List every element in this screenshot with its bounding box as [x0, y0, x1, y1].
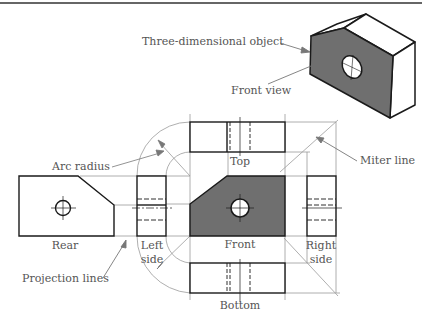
bottom-view — [190, 263, 285, 293]
label-front: Front — [215, 239, 265, 251]
label-top: Top — [222, 156, 258, 168]
top-view — [190, 122, 285, 152]
label-left-side-1: Left — [137, 240, 167, 252]
label-arc-radius: Arc radius — [52, 161, 110, 173]
label-left-side-2: side — [137, 254, 167, 266]
label-right-side-2: side — [304, 254, 338, 266]
left-side-view — [137, 176, 166, 236]
isometric-object — [310, 14, 415, 118]
label-rear: Rear — [45, 240, 85, 252]
label-front-view: Front view — [231, 85, 291, 97]
right-side-view — [307, 176, 336, 236]
label-miter-line: Miter line — [360, 155, 415, 167]
arc-outer-top — [137, 122, 190, 176]
arc-inner-bottom — [166, 236, 190, 263]
iso-leaders — [268, 43, 311, 84]
miter-line-top — [280, 120, 338, 172]
label-bottom: Bottom — [210, 300, 270, 312]
label-right-side-1: Right — [304, 240, 338, 252]
label-projection-lines: Projection lines — [22, 273, 109, 285]
label-three-dimensional-object: Three-dimensional object — [142, 36, 284, 48]
miter-leader — [316, 137, 357, 161]
